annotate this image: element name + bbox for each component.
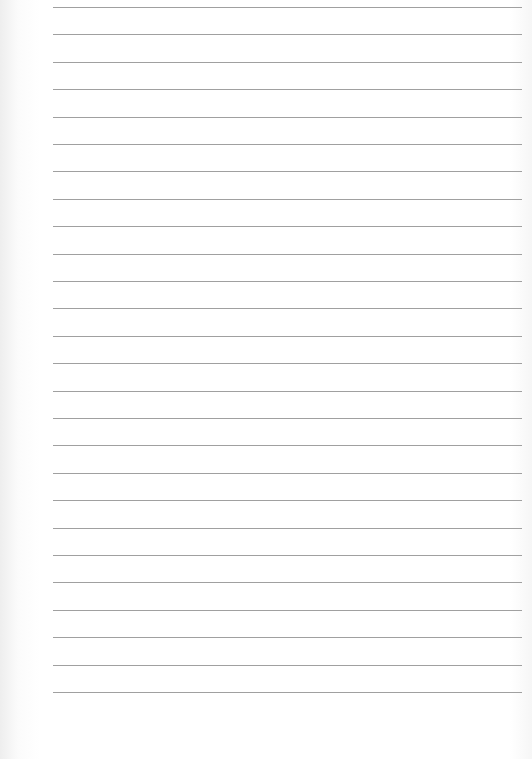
ruled-line (53, 281, 522, 282)
ruled-line (53, 62, 522, 63)
ruled-line (53, 418, 522, 419)
ruled-line (53, 144, 522, 145)
ruled-line (53, 254, 522, 255)
ruled-line (53, 34, 522, 35)
ruled-line (53, 528, 522, 529)
ruled-line (53, 445, 522, 446)
ruled-line (53, 7, 522, 8)
ruled-line (53, 692, 522, 693)
ruled-line (53, 665, 522, 666)
ruled-line (53, 391, 522, 392)
ruled-line (53, 336, 522, 337)
ruled-line (53, 171, 522, 172)
ruled-line (53, 89, 522, 90)
ruled-line (53, 473, 522, 474)
ruled-line (53, 610, 522, 611)
ruled-line (53, 500, 522, 501)
ruled-line (53, 555, 522, 556)
lined-paper-page (0, 0, 532, 759)
ruled-line (53, 117, 522, 118)
ruled-line (53, 308, 522, 309)
ruled-line (53, 363, 522, 364)
ruled-line (53, 226, 522, 227)
ruled-line (53, 637, 522, 638)
ruled-line (53, 582, 522, 583)
ruled-line (53, 199, 522, 200)
